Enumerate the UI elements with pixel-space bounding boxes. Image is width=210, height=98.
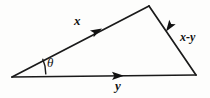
arrowhead-up-left-icon (163, 20, 176, 34)
label-vector-y: y (115, 79, 121, 92)
side-y-line (12, 75, 196, 77)
label-angle-theta: θ (47, 56, 53, 69)
vector-triangle-figure (0, 0, 210, 98)
label-vector-x: x (74, 14, 81, 27)
diagram-canvas: x x-y y θ (0, 0, 210, 98)
angle-arc-icon (43, 59, 46, 74)
label-vector-x-minus-y: x-y (180, 31, 195, 43)
